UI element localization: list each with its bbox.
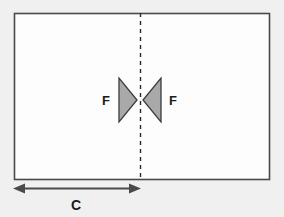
- force-label-right: F: [169, 93, 177, 108]
- force-label-left: F: [102, 93, 110, 108]
- chord-dimension-label: C: [71, 197, 81, 213]
- rectangular-plate: [15, 14, 270, 180]
- force-diagram: F F C: [0, 0, 284, 217]
- diagram-canvas: F F C: [0, 0, 284, 217]
